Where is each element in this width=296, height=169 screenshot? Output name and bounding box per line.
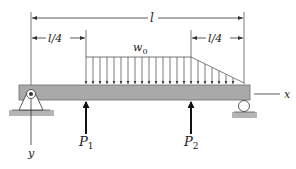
dimension-right-quarter: l/4 [192,32,243,45]
p2-label: P2 [183,134,198,151]
left-quarter-label: l/4 [48,32,62,45]
length-label: l [150,11,154,25]
roller-support [232,101,257,119]
point-load-2: P2 [183,102,198,151]
beam-diagram: l l/4 l/4 w0 [0,0,296,169]
p1-label: P1 [78,134,93,151]
beam [19,85,250,100]
y-axis-label: y [27,147,35,160]
point-load-1: P1 [78,102,93,151]
dimension-total-length: l [32,11,243,25]
dimension-left-quarter: l/4 [32,32,85,45]
right-quarter-label: l/4 [208,32,222,45]
x-axis-label: x [284,88,291,101]
distributed-load [86,57,244,84]
load-intensity-label: w0 [133,41,148,56]
